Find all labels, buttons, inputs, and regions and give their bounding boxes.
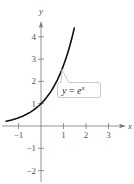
x-tick-label: 1	[61, 130, 66, 140]
y-tick-label: 2	[32, 76, 37, 86]
exponential-graph: x −1123 y 4321−1−2 y = ex	[0, 0, 134, 184]
x-ticks: −1123	[14, 123, 112, 140]
x-axis: x −1123	[2, 121, 132, 140]
x-tick-label: 3	[106, 130, 111, 140]
equation-callout: y = ex	[58, 70, 101, 98]
y-axis-label: y	[38, 6, 43, 16]
y-axis: y 4321−1−2	[26, 6, 44, 182]
y-tick-label: −2	[26, 166, 36, 176]
callout-pointer	[61, 70, 69, 84]
y-tick-label: 4	[32, 32, 37, 42]
y-tick-label: −1	[26, 143, 36, 153]
y-tick-label: 3	[32, 54, 37, 64]
y-tick-label: 1	[32, 99, 37, 109]
x-tick-label: −1	[14, 130, 24, 140]
x-axis-label: x	[127, 121, 132, 131]
x-tick-label: 2	[84, 130, 89, 140]
